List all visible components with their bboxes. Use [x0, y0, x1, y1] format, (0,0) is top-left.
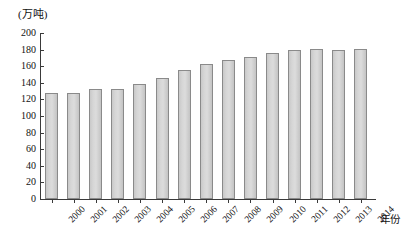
bar [111, 89, 124, 199]
x-axis-tick-label: 2006 [199, 204, 220, 225]
x-axis-tick [74, 199, 75, 203]
y-axis-tick-label: 180 [0, 45, 36, 55]
bar [266, 53, 279, 199]
bar [354, 49, 367, 199]
bar [244, 57, 257, 199]
bar [310, 49, 323, 199]
x-axis-tick-label: 2004 [154, 204, 175, 225]
x-axis-tick-label: 2013 [353, 204, 374, 225]
bar [45, 93, 58, 199]
x-axis-tick [96, 199, 97, 203]
y-axis-tick-label: 100 [0, 111, 36, 121]
bar-chart: (万吨) 020406080100120140160180200 2000200… [0, 0, 410, 244]
x-axis-tick-label: 2002 [110, 204, 131, 225]
y-axis-tick-label: 40 [0, 161, 36, 171]
x-axis-line [40, 199, 376, 200]
bar [89, 89, 102, 199]
y-axis-tick-label: 20 [0, 177, 36, 187]
x-axis-tick-label: 2010 [287, 204, 308, 225]
x-axis-tick [206, 199, 207, 203]
x-axis-tick [361, 199, 362, 203]
x-axis-tick [228, 199, 229, 203]
x-axis-tick [339, 199, 340, 203]
y-axis-tick-label: 0 [0, 194, 36, 204]
x-axis-tick-label: 2012 [331, 204, 352, 225]
x-axis-tick-label: 2011 [309, 204, 329, 224]
y-axis-tick-label: 200 [0, 28, 36, 38]
bar [332, 50, 345, 199]
x-axis-tick [250, 199, 251, 203]
bar [288, 50, 301, 199]
y-axis-tick-label: 60 [0, 144, 36, 154]
x-axis-tick-label: 2009 [265, 204, 286, 225]
x-axis-tick-label: 2008 [243, 204, 264, 225]
x-axis-tick [295, 199, 296, 203]
y-axis-tick-label: 140 [0, 78, 36, 88]
y-axis-tick-label: 160 [0, 61, 36, 71]
x-axis-tick-label: 2000 [66, 204, 87, 225]
x-axis-tick-label: 2007 [221, 204, 242, 225]
y-axis-unit-label: (万吨) [18, 8, 47, 20]
x-axis-tick-label: 2003 [132, 204, 153, 225]
bar [156, 78, 169, 199]
bar [178, 70, 191, 199]
x-axis-tick [140, 199, 141, 203]
x-axis-title: 年份 [380, 214, 400, 225]
y-axis-tick-label: 120 [0, 94, 36, 104]
x-axis-tick [118, 199, 119, 203]
x-axis-tick-label: 2005 [177, 204, 198, 225]
y-axis-tick-label: 80 [0, 128, 36, 138]
y-axis-tick [40, 199, 44, 200]
bar [133, 84, 146, 199]
x-axis-tick-label: 2001 [88, 204, 109, 225]
x-axis-tick [273, 199, 274, 203]
plot-area [40, 33, 376, 199]
x-axis-tick [162, 199, 163, 203]
x-axis-tick [52, 199, 53, 203]
x-axis-tick [184, 199, 185, 203]
bar [67, 93, 80, 199]
bar [200, 64, 213, 199]
bar [222, 60, 235, 199]
x-axis-tick [317, 199, 318, 203]
